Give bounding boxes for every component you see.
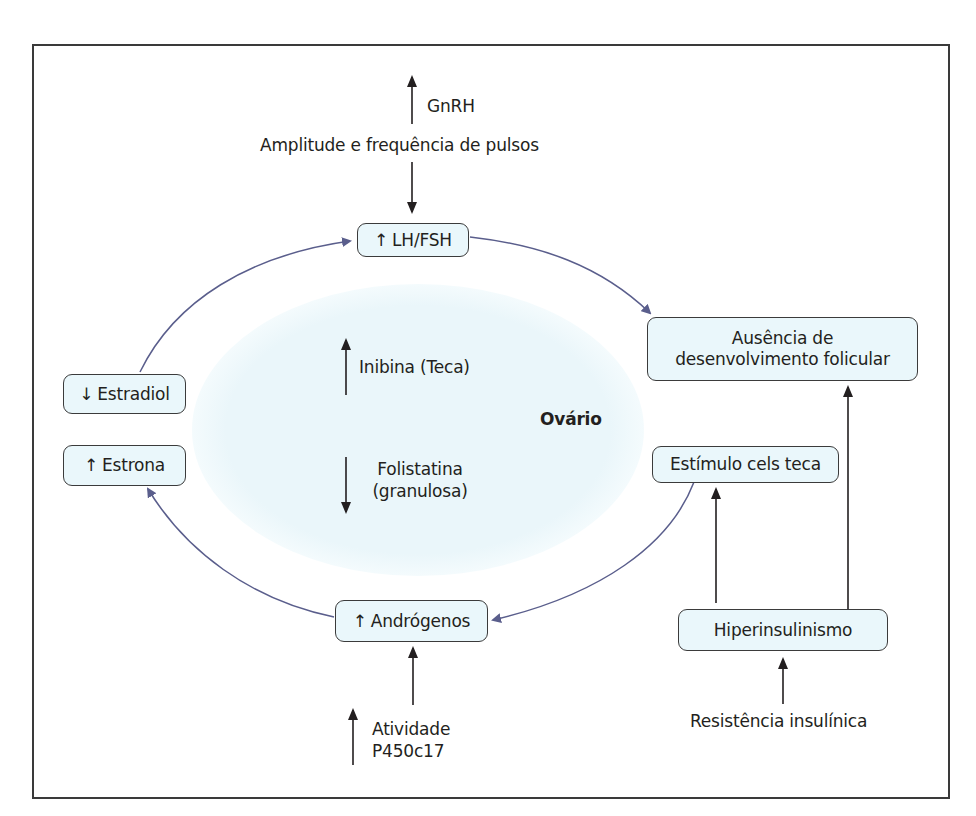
node-lh-fsh-label: LH/FSH bbox=[392, 230, 452, 251]
node-estimulo-label: Estímulo cels teca bbox=[670, 454, 821, 475]
node-estrona-label: Estrona bbox=[102, 455, 165, 476]
atividade-line1: Atividade bbox=[372, 718, 450, 740]
up-arrow-icon: ↑ bbox=[353, 611, 367, 632]
node-estrona[interactable]: ↑Estrona bbox=[63, 445, 186, 486]
node-androgenos-label: Andrógenos bbox=[371, 611, 471, 632]
node-ausencia-line2: desenvolvimento folicular bbox=[675, 349, 890, 370]
ovary-label: Ovário bbox=[540, 408, 602, 430]
gnrh-label: GnRH bbox=[427, 95, 475, 117]
down-arrow-icon: ↓ bbox=[79, 384, 93, 405]
atividade-label: Atividade P450c17 bbox=[372, 718, 450, 762]
folistatina-label: Folistatina (granulosa) bbox=[365, 458, 475, 502]
up-arrow-icon: ↑ bbox=[84, 455, 98, 476]
node-lh-fsh[interactable]: ↑LH/FSH bbox=[357, 223, 469, 257]
node-hiperinsulinismo-label: Hiperinsulinismo bbox=[714, 620, 852, 641]
folistatina-line2: (granulosa) bbox=[365, 480, 475, 502]
node-hiperinsulinismo[interactable]: Hiperinsulinismo bbox=[678, 609, 888, 651]
node-estradiol[interactable]: ↓Estradiol bbox=[63, 374, 186, 414]
node-estimulo[interactable]: Estímulo cels teca bbox=[652, 446, 839, 483]
inibina-label: Inibina (Teca) bbox=[359, 356, 470, 378]
node-androgenos[interactable]: ↑Andrógenos bbox=[335, 600, 488, 642]
folistatina-line1: Folistatina bbox=[365, 458, 475, 480]
ovary-ellipse bbox=[192, 284, 644, 576]
pulses-label: Amplitude e frequência de pulsos bbox=[260, 134, 539, 156]
node-ausencia[interactable]: Ausência de desenvolvimento folicular bbox=[647, 317, 918, 381]
up-arrow-icon: ↑ bbox=[374, 230, 388, 251]
node-ausencia-line1: Ausência de bbox=[732, 328, 833, 349]
node-estradiol-label: Estradiol bbox=[97, 384, 170, 405]
atividade-line2: P450c17 bbox=[372, 740, 450, 762]
resistencia-label: Resistência insulínica bbox=[690, 710, 867, 732]
